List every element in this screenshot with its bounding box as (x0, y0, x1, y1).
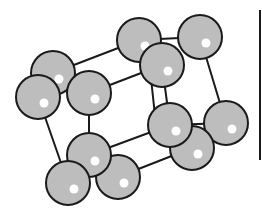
atom-F (178, 15, 222, 59)
atom-B (16, 75, 60, 119)
atom-sphere (140, 43, 184, 87)
atom-sphere (16, 75, 60, 119)
atom-highlight (228, 125, 237, 134)
atoms-layer (16, 15, 248, 205)
atom-highlight (40, 99, 49, 108)
atom-sphere (148, 103, 192, 147)
atom-highlight (70, 185, 79, 194)
atom-highlight (202, 39, 211, 48)
atom-highlight (91, 157, 100, 166)
atom-sphere (46, 161, 90, 205)
atom-G (148, 103, 192, 147)
atom-K (46, 161, 90, 205)
atom-highlight (164, 67, 173, 76)
atom-highlight (55, 75, 64, 84)
atom-highlight (194, 150, 203, 159)
atom-sphere (67, 71, 111, 115)
atom-highlight (120, 179, 129, 188)
atom-E (140, 43, 184, 87)
atom-highlight (91, 95, 100, 104)
crystal-lattice-diagram (0, 0, 262, 219)
atom-sphere (178, 15, 222, 59)
atom-highlight (172, 127, 181, 136)
atom-C (67, 71, 111, 115)
